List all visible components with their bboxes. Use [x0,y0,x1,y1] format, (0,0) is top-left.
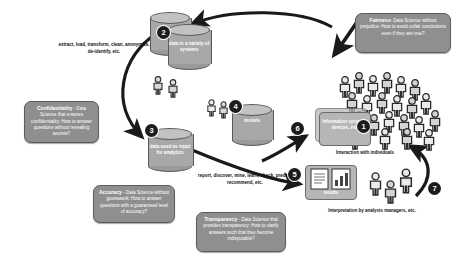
step-badge-2: 2 [157,26,170,39]
callout-confidentiality-term: Confidentiality [37,105,72,111]
step-badge-3: 3 [145,124,158,137]
person-icon [152,76,164,95]
person-icon [398,168,414,194]
interpretation-annotation: Interpretation by analysts managers, etc… [292,208,452,215]
callout-fairness-term: Fairness [370,17,391,23]
results-label: results [306,190,356,196]
callout-confidentiality: Confidentiality - Data Science that ensu… [24,101,99,143]
person-icon [218,101,229,119]
callout-fairness: Fairness- Data Science without prejudice… [355,13,451,53]
etl-annotation: extract, load, transform, clean, anonymi… [58,42,150,55]
callout-transparency-term: Transparency [204,216,237,222]
cylinder-data-variety: data in a variety of systems [168,24,210,70]
person-icon [383,180,398,204]
document-icon [310,168,329,190]
analytics-annotation: report, discover, mine, learn, check, pr… [190,173,300,186]
data-science-lifecycle-diagram: data in a variety of systems 2 data used… [0,0,470,269]
callout-accuracy-term: Accuracy [99,189,122,195]
step-badge-7: 7 [428,182,441,195]
interaction-annotation: Interaction with individuals [300,150,430,157]
callout-transparency: Transparency - Data Science that provide… [196,212,286,252]
cylinder-data-input-label: data used as input for analytics [148,144,192,156]
person-icon [167,79,179,98]
step-badge-6: 6 [291,122,304,135]
callout-accuracy: Accuracy - Data Science without guesswor… [93,185,175,223]
person-icon [368,172,383,196]
step-badge-4: 4 [229,100,242,113]
arrow-1-to-2 [192,13,332,27]
arrow-into-crowd [334,22,357,55]
person-icon [206,99,217,117]
step-badge-5: 5 [288,168,301,181]
step-badge-1: 1 [357,120,370,133]
chart-icon [331,168,351,190]
cylinder-data-variety-label: data in a variety of systems [168,41,210,53]
cylinder-models-label: models [232,118,272,124]
